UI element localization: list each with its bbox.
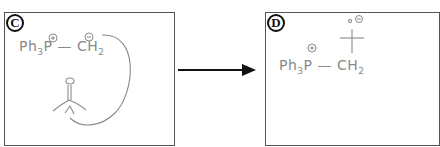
positive-charge-icon xyxy=(308,44,316,52)
panel-d: D Ph3P — CH2 xyxy=(265,12,440,146)
alkoxide-carbon xyxy=(340,20,364,54)
panel-c-drawing xyxy=(5,13,176,147)
panel-d-drawing xyxy=(266,13,440,147)
arrow-right-icon xyxy=(176,60,264,80)
reaction-arrow xyxy=(176,60,264,80)
positive-charge-icon xyxy=(49,34,57,42)
panel-c: C Ph3P — CH2 xyxy=(4,12,175,146)
negative-charge-icon xyxy=(85,33,93,41)
curved-arrow-icon xyxy=(65,35,130,125)
negative-charge-icon xyxy=(356,16,363,23)
